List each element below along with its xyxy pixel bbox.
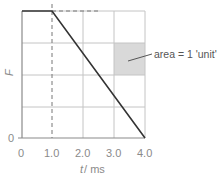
x-tick-0: 0: [18, 147, 24, 159]
x-tick-2: 2.0: [75, 147, 90, 159]
annotation-label: area = 1 'unit': [154, 48, 217, 60]
y-axis-label: F: [3, 68, 15, 76]
unit-area-square: [114, 43, 145, 75]
x-tick-3: 3.0: [106, 147, 121, 159]
x-axis-unit: / ms: [84, 163, 105, 175]
y-tick-0: 0: [8, 132, 14, 144]
x-tick-1: 1.0: [44, 147, 59, 159]
grid: [22, 11, 145, 138]
x-tick-4: 4.0: [137, 147, 152, 159]
chart: area = 1 'unit' 0 0 1.0 2.0 3.0 4.0 F t/…: [0, 0, 221, 181]
x-axis-label: t/ ms: [80, 163, 105, 175]
